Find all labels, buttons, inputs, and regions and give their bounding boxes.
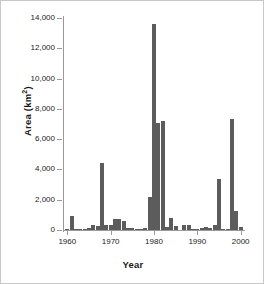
- bar: [100, 163, 104, 230]
- x-axis-tick-label: 1990: [177, 237, 217, 246]
- y-axis-tick: [57, 169, 62, 170]
- bar-series: [63, 18, 245, 230]
- y-axis-tick-label: 12,000: [5, 43, 55, 52]
- y-axis-tick-label-wrap: 8,000: [1, 104, 55, 114]
- y-axis-tick: [57, 18, 62, 19]
- y-axis-tick-label: 14,000: [5, 13, 55, 22]
- chart-figure: Area (km2) 02,0004,0006,0008,00010,00012…: [0, 0, 264, 284]
- x-axis-tick: [241, 231, 242, 235]
- y-axis-title-tail: ): [22, 86, 33, 89]
- x-axis-title: Year: [1, 259, 264, 270]
- bar: [161, 121, 165, 230]
- bar: [217, 179, 221, 230]
- y-axis-tick: [57, 48, 62, 49]
- bar: [174, 226, 178, 230]
- y-axis-tick: [57, 200, 62, 201]
- y-axis-tick-label-wrap: 2,000: [1, 195, 55, 205]
- y-axis-title-text: Area (km: [22, 94, 33, 136]
- x-axis-tick-label-wrap: 1970: [91, 237, 131, 249]
- y-axis-tick-label: 6,000: [5, 134, 55, 143]
- y-axis-tick-label-wrap: 6,000: [1, 134, 55, 144]
- y-axis-tick: [57, 139, 62, 140]
- x-axis-tick: [154, 231, 155, 235]
- y-axis-tick-label: 0: [5, 225, 55, 234]
- bar: [239, 227, 243, 230]
- y-axis-tick-label: 8,000: [5, 104, 55, 113]
- x-axis-tick-label: 1960: [47, 237, 87, 246]
- x-axis-tick-label: 1980: [134, 237, 174, 246]
- y-axis-title-exponent: 2: [21, 90, 28, 94]
- y-axis-tick-label-wrap: 4,000: [1, 164, 55, 174]
- y-axis-tick-label-wrap: 12,000: [1, 43, 55, 53]
- y-axis-tick: [57, 79, 62, 80]
- y-axis-tick: [57, 109, 62, 110]
- y-axis-tick-label-wrap: 10,000: [1, 74, 55, 84]
- x-axis-tick-label-wrap: 1980: [134, 237, 174, 249]
- x-axis-tick-label-wrap: 1960: [47, 237, 87, 249]
- x-axis-tick: [197, 231, 198, 235]
- y-axis-tick-label-wrap: 14,000: [1, 13, 55, 23]
- y-axis-tick-label: 2,000: [5, 195, 55, 204]
- y-axis-tick-label: 4,000: [5, 164, 55, 173]
- x-axis-tick: [111, 231, 112, 235]
- y-axis-tick: [57, 230, 62, 231]
- x-axis-tick-label-wrap: 2000: [221, 237, 261, 249]
- x-axis-tick: [67, 231, 68, 235]
- y-axis-tick-label-wrap: 0: [1, 225, 55, 235]
- x-axis-tick-label-wrap: 1990: [177, 237, 217, 249]
- x-axis-tick-label: 2000: [221, 237, 261, 246]
- y-axis-tick-label: 10,000: [5, 74, 55, 83]
- bar: [70, 216, 74, 230]
- x-axis-tick-label: 1970: [91, 237, 131, 246]
